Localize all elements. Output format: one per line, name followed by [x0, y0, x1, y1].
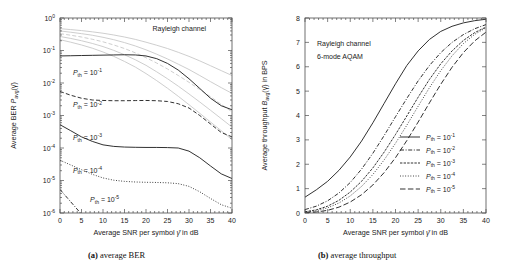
- y-tick-label: 1: [296, 185, 300, 192]
- x-tick-label: 15: [369, 217, 377, 224]
- panel-b-plot-area: [305, 19, 486, 213]
- panel-b-svg: 0510152025303540012345678Average SNR per…: [253, 0, 507, 244]
- panel-a-inline-labels: Pth = 10-1Pth = 10-2Pth = 10-3Pth = 10-4…: [73, 67, 119, 204]
- y-tick-label: 5: [296, 88, 300, 95]
- annotation-rayleigh-channel: Rayleigh channel: [152, 25, 206, 33]
- annotation-6-mode-aqam: 6-mode AQAM: [317, 53, 363, 61]
- x-tick-label: 10: [99, 217, 107, 224]
- x-tick-label: 40: [228, 217, 236, 224]
- y-tick-label: 8: [296, 15, 300, 22]
- legend-label-2: Pth = 10-3: [426, 158, 455, 168]
- legend-label-0: Pth = 10-1: [426, 132, 455, 142]
- x-tick-label: 20: [392, 217, 400, 224]
- curve-label-0: Pth = 10-1: [73, 67, 102, 77]
- x-tick-label: 5: [326, 217, 330, 224]
- legend-label-1: Pth = 10-2: [426, 145, 455, 155]
- x-tick-label: 35: [207, 217, 215, 224]
- y-tick-label: 3: [296, 136, 300, 143]
- caption-a: (a) average BER: [88, 250, 145, 260]
- curve-label-3: Pth = 10-4: [73, 165, 102, 175]
- caption-a-tag: (a): [88, 250, 98, 260]
- x-tick-label: 30: [437, 217, 445, 224]
- chart-panel-average-ber: 051015202530354010010-110-210-310-410-51…: [0, 0, 253, 244]
- caption-b: (b) average throughput: [318, 250, 396, 260]
- panel-a-svg: 051015202530354010010-110-210-310-410-51…: [0, 0, 253, 244]
- panel-b-legend: Pth = 10-1Pth = 10-2Pth = 10-3Pth = 10-4…: [400, 132, 455, 194]
- panel-b-curves: [305, 19, 486, 213]
- panel-a-axes: 051015202530354010010-110-210-310-410-51…: [43, 13, 236, 224]
- figure-container: 051015202530354010010-110-210-310-410-51…: [0, 0, 507, 279]
- caption-b-tag: (b): [318, 250, 328, 260]
- x-tick-label: 25: [414, 217, 422, 224]
- curve-label-2: Pth = 10-3: [73, 132, 102, 142]
- x-tick-label: 20: [142, 217, 150, 224]
- caption-b-text: average throughput: [328, 250, 396, 260]
- x-tick-label: 35: [459, 217, 467, 224]
- y-tick-label: 10-5: [43, 175, 55, 184]
- y-tick-label: 0: [296, 210, 300, 217]
- x-tick-label: 30: [185, 217, 193, 224]
- x-tick-label: 0: [303, 217, 307, 224]
- x-tick-label: 5: [80, 217, 84, 224]
- y-tick-label: 10-3: [43, 110, 55, 119]
- panel-a-reference-curves: [60, 29, 232, 140]
- y-tick-label: 4: [296, 112, 300, 119]
- y-tick-label: 2: [296, 161, 300, 168]
- y-tick-label: 6: [296, 63, 300, 70]
- y-tick-label: 10-2: [43, 78, 55, 87]
- chart-panel-average-throughput: 0510152025303540012345678Average SNR per…: [253, 0, 507, 244]
- y-axis-title: Average throughput Bavg(γ̄) in BPS: [260, 60, 270, 170]
- x-tick-label: 10: [346, 217, 354, 224]
- y-tick-label: 10-4: [43, 143, 55, 152]
- panel-a-curves: [60, 55, 232, 244]
- curve-label-1: Pth = 10-2: [73, 100, 102, 110]
- y-axis-title: Average BER Pavg(γ̄): [9, 82, 19, 149]
- reference-curve-4: [60, 40, 232, 140]
- x-axis-title: Average SNR per symbol γ̄ in dB: [343, 228, 448, 237]
- y-tick-label: 10-6: [43, 208, 55, 217]
- series-curve-1: [60, 91, 232, 136]
- x-axis-title: Average SNR per symbol γ̄ in dB: [94, 228, 199, 237]
- reference-curve-1: [60, 31, 232, 93]
- caption-a-text: average BER: [98, 250, 145, 260]
- y-tick-label: 100: [44, 13, 55, 22]
- y-tick-label: 10-1: [43, 45, 55, 54]
- legend-label-4: Pth = 10-5: [426, 184, 455, 194]
- x-tick-label: 40: [482, 217, 490, 224]
- x-tick-label: 25: [164, 217, 172, 224]
- x-tick-label: 15: [121, 217, 129, 224]
- annotation-rayleigh-channel: Rayleigh channel: [317, 40, 371, 48]
- x-tick-label: 0: [58, 217, 62, 224]
- curve-label-4: Pth = 10-5: [90, 194, 119, 204]
- caption-row: (a) average BER (b) average throughput: [0, 244, 507, 279]
- y-tick-label: 7: [296, 39, 300, 46]
- legend-label-3: Pth = 10-4: [426, 171, 455, 181]
